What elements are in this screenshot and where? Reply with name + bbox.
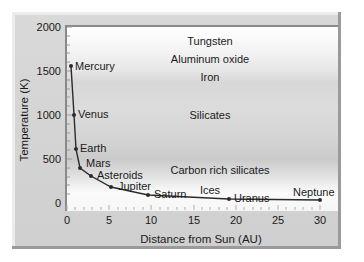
y-tick-0: 0 [55,197,61,209]
data-points [69,64,322,202]
band-labels: Tungsten Aluminum oxide Iron Silicates C… [170,35,270,196]
point-jupiter [109,185,113,189]
band-carbon-rich-silicates: Carbon rich silicates [170,164,270,176]
point-uranus [227,197,231,201]
label-saturn: Saturn [154,188,186,200]
band-ices: Ices [200,184,221,196]
label-mars: Mars [86,157,111,169]
y-tick-1500: 1500 [37,65,61,77]
y-tick-labels: 2000 1500 1000 500 0 [37,21,61,209]
label-venus: Venus [78,108,109,120]
point-earth [74,147,78,151]
x-axis-label: Distance from Sun (AU) [140,233,262,245]
y-tick-2000: 2000 [37,21,61,33]
label-uranus: Uranus [234,192,270,204]
y-tick-1000: 1000 [37,109,61,121]
point-asteroids [89,174,93,178]
x-tick-30: 30 [314,214,326,226]
y-axis-label: Temperature (K) [18,78,30,161]
x-tick-15: 15 [188,214,200,226]
label-jupiter: Jupiter [118,180,151,192]
band-aluminum-oxide: Aluminum oxide [171,53,249,65]
label-neptune: Neptune [293,186,335,198]
x-tick-20: 20 [230,214,242,226]
point-mars [78,166,82,170]
label-earth: Earth [80,142,106,154]
band-iron: Iron [201,71,220,83]
band-tungsten: Tungsten [187,35,232,47]
y-tick-500: 500 [43,153,61,165]
point-mercury [69,64,73,68]
y-axis-ticks [67,27,72,194]
x-tick-10: 10 [145,214,157,226]
x-tick-25: 25 [272,214,284,226]
x-tick-0: 0 [64,214,70,226]
label-mercury: Mercury [75,60,115,72]
band-silicates: Silicates [190,109,231,121]
x-tick-5: 5 [106,214,112,226]
x-axis-ticks [67,205,320,210]
point-saturn [146,193,150,197]
chart-svg: 2000 1500 1000 500 0 0 5 10 15 20 25 30 … [0,0,364,262]
x-tick-labels: 0 5 10 15 20 25 30 [64,214,326,226]
point-venus [72,113,76,117]
point-neptune [318,198,322,202]
